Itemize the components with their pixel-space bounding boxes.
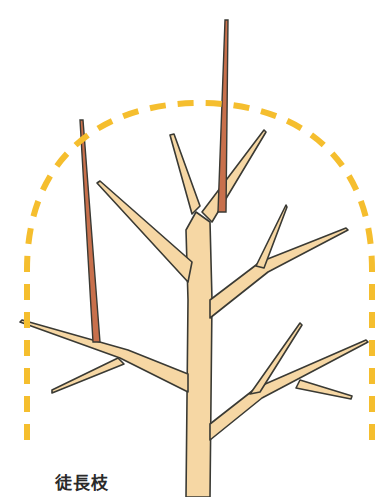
tree-pruning-illustration [0, 0, 392, 497]
branch-lower-right-fork-down [296, 380, 352, 399]
branch-lower-right [210, 340, 368, 440]
water-sprout-left [80, 120, 100, 342]
trunk [186, 212, 212, 497]
water-sprout-label: 徒長枝 [55, 469, 109, 494]
branch-lower-left-fork [52, 358, 124, 393]
branch-top-right [202, 130, 266, 222]
tree-branches [20, 130, 368, 497]
branch-lower-left [20, 320, 188, 392]
water-sprout-center [218, 20, 228, 212]
branch-upper-left [97, 181, 192, 282]
branch-top-left [170, 134, 200, 214]
branch-upper-right [210, 228, 348, 318]
